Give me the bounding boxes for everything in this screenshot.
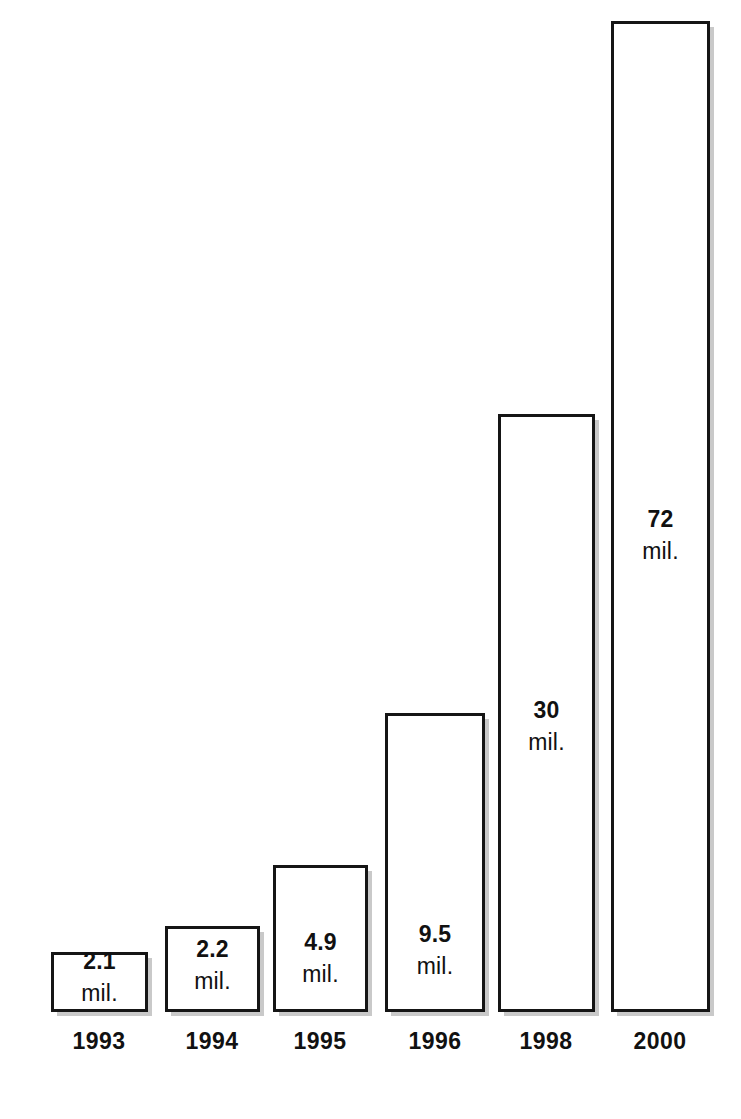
bar-unit-text: mil. [642, 540, 679, 563]
bar-1996: 9.5mil. [385, 713, 485, 1012]
bar-value-text: 9.5 [419, 923, 452, 946]
bar-1995: 4.9mil. [273, 865, 368, 1012]
bar-value-text: 30 [534, 699, 560, 722]
bar-data-label: 9.5mil. [417, 923, 454, 978]
bar-value-text: 2.2 [196, 938, 229, 961]
bar-chart: 2.1mil.2.2mil.4.9mil.9.5mil.30mil.72mil.… [0, 0, 741, 1119]
bar-data-label: 72mil. [642, 508, 679, 563]
x-tick-label-1998: 1998 [486, 1028, 606, 1055]
bar-unit-text: mil. [417, 955, 454, 978]
x-tick-label-1993: 1993 [39, 1028, 159, 1055]
bar-value-text: 2.1 [83, 950, 116, 973]
bar-value-text: 4.9 [304, 931, 337, 954]
bar-1998: 30mil. [498, 414, 595, 1012]
bar-data-label: 4.9mil. [302, 931, 339, 986]
bar-data-label: 30mil. [528, 699, 565, 754]
bar-unit-text: mil. [81, 982, 118, 1005]
x-tick-label-1996: 1996 [375, 1028, 495, 1055]
bar-1993: 2.1mil. [51, 952, 148, 1012]
bar-2000: 72mil. [611, 21, 710, 1012]
bar-unit-text: mil. [528, 731, 565, 754]
bar-1994: 2.2mil. [165, 926, 260, 1012]
plot-area: 2.1mil.2.2mil.4.9mil.9.5mil.30mil.72mil. [0, 0, 741, 1119]
bar-value-text: 72 [648, 508, 674, 531]
bar-unit-text: mil. [302, 963, 339, 986]
bar-unit-text: mil. [194, 970, 231, 993]
x-tick-label-1994: 1994 [152, 1028, 272, 1055]
x-tick-label-2000: 2000 [600, 1028, 720, 1055]
bar-data-label: 2.1mil. [81, 950, 118, 1005]
x-tick-label-1995: 1995 [260, 1028, 380, 1055]
bar-data-label: 2.2mil. [194, 938, 231, 993]
